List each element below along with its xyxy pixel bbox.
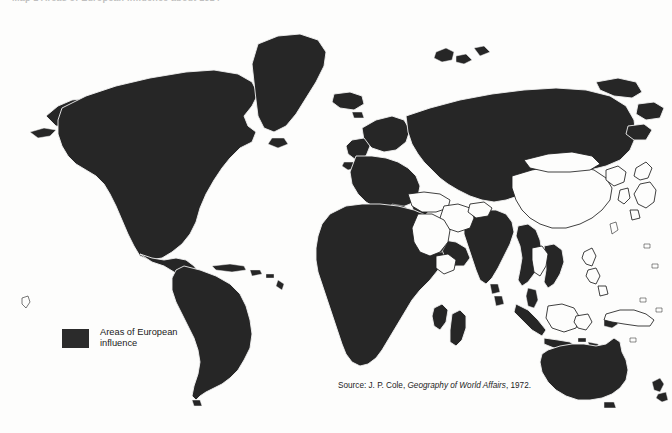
source-suffix: , 1972.: [506, 381, 531, 390]
legend: Areas of European influence: [62, 327, 178, 350]
legend-label: Areas of European influence: [100, 327, 178, 350]
legend-label-line-1: Areas of European: [100, 327, 178, 338]
legend-label-line-2: influence: [100, 338, 178, 349]
map-figure: Map 1 Areas of European influence about …: [0, 0, 672, 433]
legend-swatch-icon: [62, 329, 89, 348]
page-title: Map 1 Areas of European influence about …: [0, 0, 672, 4]
source-work-title: Geography of World Affairs: [407, 381, 505, 390]
figure-title-cropped: Map 1 Areas of European influence about …: [0, 0, 672, 4]
source-prefix: Source: J. P. Cole,: [338, 381, 405, 390]
source-citation: Source: J. P. Cole, Geography of World A…: [338, 381, 531, 390]
